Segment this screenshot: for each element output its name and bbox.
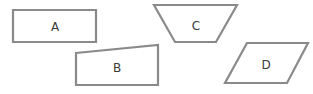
- shapes-diagram: A B C D: [0, 0, 313, 94]
- shape-d: D: [225, 43, 308, 83]
- shape-a: A: [13, 10, 96, 42]
- shape-b-label: B: [113, 61, 121, 75]
- shape-c-label: C: [192, 19, 200, 33]
- shape-a-label: A: [51, 20, 60, 34]
- shape-b: B: [76, 45, 158, 85]
- shape-c: C: [154, 5, 237, 42]
- diagram-svg: A B C D: [0, 0, 313, 94]
- shape-d-label: D: [261, 58, 270, 72]
